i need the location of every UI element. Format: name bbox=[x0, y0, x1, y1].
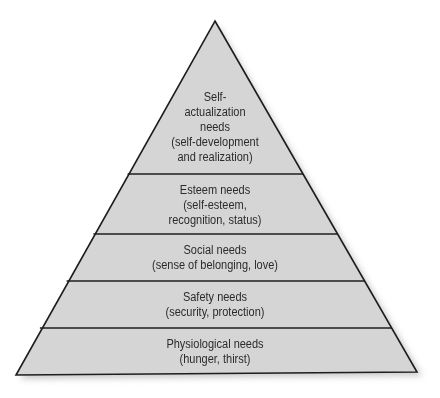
level-social-line-1: Social needs bbox=[114, 243, 316, 258]
level-physiological-line-1: Physiological needs bbox=[114, 337, 316, 352]
level-social: Social needs (sense of belonging, love) bbox=[114, 243, 316, 273]
needs-pyramid-diagram: Self- actualization needs (self-developm… bbox=[0, 0, 440, 398]
level-self-actualization-line-3: needs bbox=[149, 120, 281, 135]
level-esteem-line-1: Esteem needs bbox=[136, 183, 294, 198]
level-physiological: Physiological needs (hunger, thirst) bbox=[114, 337, 316, 367]
level-safety: Safety needs (security, protection) bbox=[114, 290, 316, 320]
level-safety-line-1: Safety needs bbox=[114, 290, 316, 305]
level-physiological-line-2: (hunger, thirst) bbox=[114, 352, 316, 367]
level-esteem-line-2: (self-esteem, bbox=[136, 198, 294, 213]
level-self-actualization: Self- actualization needs (self-developm… bbox=[149, 90, 281, 165]
level-self-actualization-line-1: Self- bbox=[149, 90, 281, 105]
level-safety-line-2: (security, protection) bbox=[114, 305, 316, 320]
level-esteem-line-3: recognition, status) bbox=[136, 213, 294, 228]
level-self-actualization-line-5: and realization) bbox=[149, 150, 281, 165]
level-self-actualization-line-4: (self-development bbox=[149, 135, 281, 150]
level-self-actualization-line-2: actualization bbox=[149, 105, 281, 120]
level-esteem: Esteem needs (self-esteem, recognition, … bbox=[136, 183, 294, 228]
level-social-line-2: (sense of belonging, love) bbox=[114, 258, 316, 273]
